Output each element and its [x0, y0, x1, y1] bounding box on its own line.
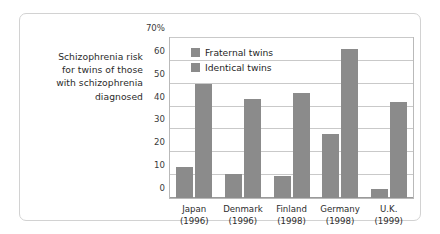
chart-legend: Fraternal twinsIdentical twins	[191, 45, 275, 75]
bar-group	[274, 38, 310, 198]
figure-panel: Schizophrenia riskfor twins of thosewith…	[19, 13, 421, 221]
x-axis-tick-label: Finland(1998)	[267, 204, 316, 227]
x-axis-category-name: Germany	[320, 204, 360, 214]
bar-fraternal	[274, 176, 291, 198]
bar-group	[322, 38, 358, 198]
y-axis-tick-label: 50	[154, 69, 165, 79]
bar-fraternal	[371, 189, 388, 198]
x-axis-category-year: (1999)	[364, 216, 413, 228]
plot-frame: 010203040506070%Japan(1996)Denmark(1996)…	[169, 37, 414, 199]
bar-identical	[390, 102, 407, 198]
x-axis-category-year: (1998)	[267, 216, 316, 228]
bar-identical	[341, 49, 358, 198]
y-axis-tick-label: 0	[160, 183, 165, 193]
x-axis-tick-label: Germany(1998)	[316, 204, 365, 227]
bar-fraternal	[176, 167, 193, 198]
y-axis-tick-label: 70%	[146, 23, 165, 33]
legend-swatch-icon	[191, 63, 200, 72]
legend-label: Fraternal twins	[205, 47, 275, 58]
x-axis-tick-label: Denmark(1996)	[219, 204, 268, 227]
x-axis-category-name: Finland	[276, 204, 307, 214]
x-axis-category-name: U.K.	[380, 204, 397, 214]
x-axis-category-year: (1996)	[170, 216, 219, 228]
bar-identical	[244, 99, 261, 198]
caption-line: diagnosed	[27, 90, 143, 103]
caption-line: Schizophrenia risk	[27, 50, 143, 63]
bar-fraternal	[225, 174, 242, 198]
x-axis-category-name: Japan	[182, 204, 206, 214]
bar-identical	[293, 93, 310, 198]
caption-line: for twins of those	[27, 63, 143, 76]
y-axis-tick-label: 40	[154, 92, 165, 102]
chart-caption: Schizophrenia riskfor twins of thosewith…	[27, 50, 143, 103]
x-axis-category-year: (1996)	[219, 216, 268, 228]
legend-item: Identical twins	[191, 60, 275, 74]
bar-fraternal	[322, 134, 339, 198]
legend-swatch-icon	[191, 48, 200, 57]
y-axis-tick-label: 30	[154, 114, 165, 124]
x-axis-category-name: Denmark	[223, 204, 263, 214]
x-axis-tick-label: U.K.(1999)	[364, 204, 413, 227]
legend-item: Fraternal twins	[191, 45, 275, 59]
legend-label: Identical twins	[205, 62, 274, 73]
caption-line: with schizophrenia	[27, 76, 143, 89]
y-axis-tick-label: 60	[154, 46, 165, 56]
bar-group	[371, 38, 407, 198]
bar-identical	[195, 84, 212, 198]
y-axis-tick-label: 20	[154, 137, 165, 147]
x-axis-tick-label: Japan(1996)	[170, 204, 219, 227]
x-axis-category-year: (1998)	[316, 216, 365, 228]
y-axis-tick-label: 10	[154, 160, 165, 170]
